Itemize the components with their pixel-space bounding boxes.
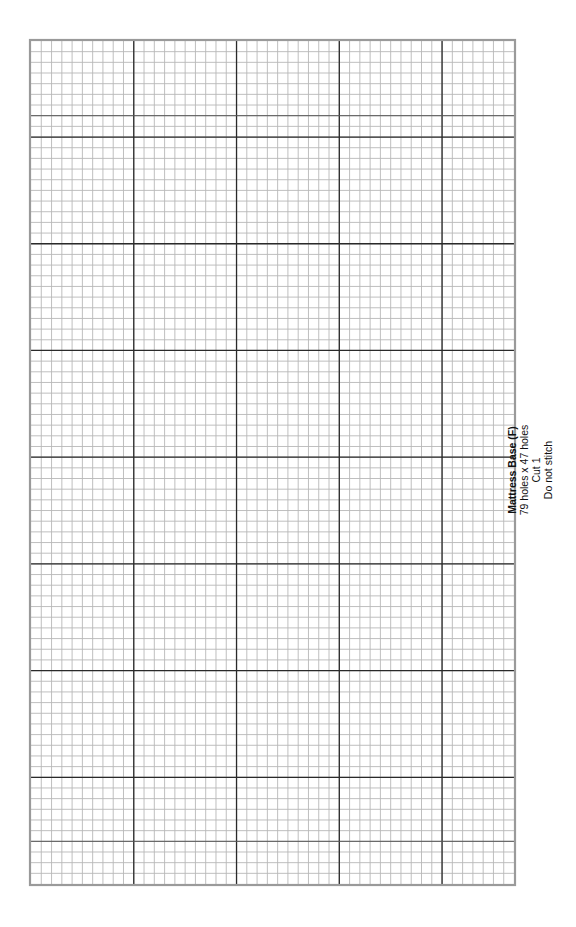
canvas-grid	[0, 0, 576, 927]
pattern-title: Mattress Base (F)	[506, 425, 518, 515]
pattern-stitch-note: Do not stitch	[542, 425, 554, 515]
pattern-label: Mattress Base (F) 79 holes x 47 holes Cu…	[506, 425, 554, 515]
pattern-dimensions: 79 holes x 47 holes	[518, 425, 530, 515]
pattern-cut: Cut 1	[530, 425, 542, 515]
